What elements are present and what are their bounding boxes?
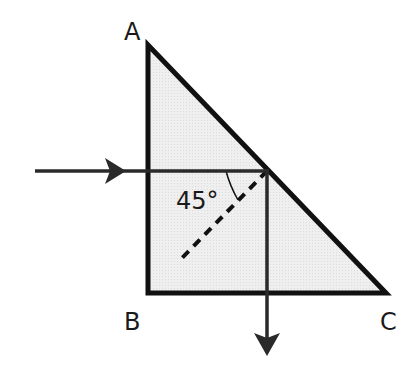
- vertex-label-b: B: [124, 308, 140, 336]
- angle-label: 45°: [176, 187, 219, 215]
- prism-diagram: A B C 45°: [0, 0, 416, 368]
- vertex-label-a: A: [124, 18, 141, 46]
- vertex-label-c: C: [380, 308, 397, 336]
